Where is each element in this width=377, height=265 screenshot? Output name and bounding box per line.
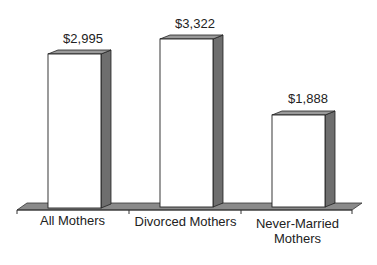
value-label-never-married-mothers: $1,888 [283, 91, 333, 106]
category-label-never-married-mothers: Never-Married Mothers [245, 216, 350, 246]
category-label-divorced-mothers: Divorced Mothers [128, 214, 243, 229]
bar-divorced-mothers [160, 35, 223, 207]
value-label-all-mothers: $2,995 [58, 31, 108, 46]
category-line: All Mothers [40, 213, 105, 228]
value-label-divorced-mothers: $3,322 [170, 16, 220, 31]
category-line: Mothers [274, 231, 321, 246]
bar-all-mothers [48, 50, 111, 208]
category-line: Divorced Mothers [135, 214, 237, 229]
category-label-all-mothers: All Mothers [30, 213, 115, 228]
category-line: Never-Married [256, 216, 339, 231]
bar-never-married-mothers [272, 111, 335, 207]
